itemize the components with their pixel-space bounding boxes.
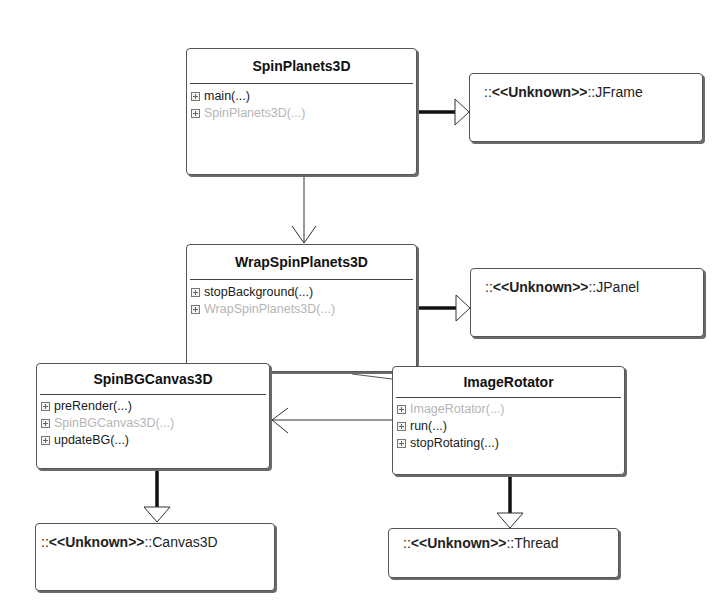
operation-icon bbox=[191, 305, 200, 314]
operation-item[interactable]: main(...) bbox=[191, 88, 412, 105]
external-class-jpanel[interactable]: ::<<Unknown>>::JPanel bbox=[470, 268, 704, 337]
operation-icon bbox=[397, 405, 406, 414]
stereotype: <<Unknown>> bbox=[492, 84, 588, 100]
operation-icon bbox=[397, 422, 406, 431]
operation-item[interactable]: stopBackground(...) bbox=[191, 284, 412, 301]
operation-label: WrapSpinPlanets3D(...) bbox=[204, 301, 335, 318]
operation-icon bbox=[41, 402, 50, 411]
external-class-name: ::<<Unknown>>::Canvas3D bbox=[36, 524, 274, 550]
class-suffix: ::Canvas3D bbox=[144, 534, 217, 550]
operation-label: ImageRotator(...) bbox=[410, 401, 504, 418]
class-suffix: ::JPanel bbox=[588, 279, 639, 295]
class-wrapspinplanets3d[interactable]: WrapSpinPlanets3D stopBackground(...) Wr… bbox=[186, 244, 417, 372]
constructor-item[interactable]: ImageRotator(...) bbox=[397, 401, 620, 418]
operations-list: stopBackground(...) WrapSpinPlanets3D(..… bbox=[187, 280, 416, 318]
operation-icon bbox=[191, 288, 200, 297]
class-spinplanets3d[interactable]: SpinPlanets3D main(...) SpinPlanets3D(..… bbox=[186, 48, 417, 175]
stereotype: <<Unknown>> bbox=[49, 534, 145, 550]
namespace-prefix: :: bbox=[484, 84, 492, 100]
external-class-canvas3d[interactable]: ::<<Unknown>>::Canvas3D bbox=[35, 523, 275, 591]
class-spinbgcanvas3d[interactable]: SpinBGCanvas3D preRender(...) SpinBGCanv… bbox=[36, 363, 270, 469]
operation-label: stopBackground(...) bbox=[204, 284, 313, 301]
operation-icon bbox=[191, 109, 200, 118]
operation-item[interactable]: preRender(...) bbox=[41, 398, 265, 415]
constructor-item[interactable]: SpinPlanets3D(...) bbox=[191, 105, 412, 122]
class-name: WrapSpinPlanets3D bbox=[187, 245, 416, 279]
operation-icon bbox=[191, 92, 200, 101]
class-name: ImageRotator bbox=[393, 367, 624, 397]
stereotype: <<Unknown>> bbox=[411, 535, 507, 551]
operation-item[interactable]: stopRotating(...) bbox=[397, 435, 620, 452]
operation-label: run(...) bbox=[410, 418, 447, 435]
namespace-prefix: :: bbox=[403, 535, 411, 551]
constructor-item[interactable]: WrapSpinPlanets3D(...) bbox=[191, 301, 412, 318]
namespace-prefix: :: bbox=[41, 534, 49, 550]
operation-icon bbox=[397, 439, 406, 448]
operation-label: SpinPlanets3D(...) bbox=[204, 105, 305, 122]
external-class-name: ::<<Unknown>>::JFrame bbox=[470, 74, 702, 100]
class-name: SpinBGCanvas3D bbox=[37, 364, 269, 394]
operations-list: preRender(...) SpinBGCanvas3D(...) updat… bbox=[37, 395, 269, 449]
operation-item[interactable]: run(...) bbox=[397, 418, 620, 435]
class-suffix: ::JFrame bbox=[587, 84, 642, 100]
class-imagerotator[interactable]: ImageRotator ImageRotator(...) run(...) … bbox=[392, 366, 625, 475]
operation-item[interactable]: updateBG(...) bbox=[41, 432, 265, 449]
stereotype: <<Unknown>> bbox=[493, 279, 589, 295]
operations-list: main(...) SpinPlanets3D(...) bbox=[187, 84, 416, 122]
class-name: SpinPlanets3D bbox=[187, 49, 416, 83]
operation-icon bbox=[41, 436, 50, 445]
external-class-name: ::<<Unknown>>::Thread bbox=[389, 529, 618, 551]
operation-label: stopRotating(...) bbox=[410, 435, 499, 452]
class-suffix: ::Thread bbox=[506, 535, 558, 551]
operation-label: preRender(...) bbox=[54, 398, 132, 415]
constructor-item[interactable]: SpinBGCanvas3D(...) bbox=[41, 415, 265, 432]
operation-label: SpinBGCanvas3D(...) bbox=[54, 415, 174, 432]
external-class-jframe[interactable]: ::<<Unknown>>::JFrame bbox=[469, 73, 703, 142]
external-class-thread[interactable]: ::<<Unknown>>::Thread bbox=[388, 528, 619, 578]
operation-icon bbox=[41, 419, 50, 428]
operations-list: ImageRotator(...) run(...) stopRotating(… bbox=[393, 398, 624, 452]
operation-label: updateBG(...) bbox=[54, 432, 129, 449]
operation-label: main(...) bbox=[204, 88, 250, 105]
namespace-prefix: :: bbox=[485, 279, 493, 295]
external-class-name: ::<<Unknown>>::JPanel bbox=[471, 269, 703, 295]
